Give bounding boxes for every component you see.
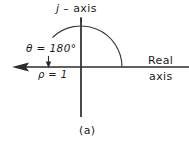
j-axis-label-text: – axis <box>59 2 96 15</box>
magnitude-annotation: ρ = 1 <box>38 70 67 80</box>
complex-plane-figure: j – axis Real axis θ = 180° ρ = 1 (a) <box>0 0 189 147</box>
j-axis-label: j – axis <box>56 3 97 14</box>
real-axis-label-line1: Real <box>148 55 173 66</box>
angle-annotation: θ = 180° <box>26 43 76 54</box>
figure-caption: (a) <box>79 125 96 136</box>
real-axis-label-line2: axis <box>149 71 173 82</box>
